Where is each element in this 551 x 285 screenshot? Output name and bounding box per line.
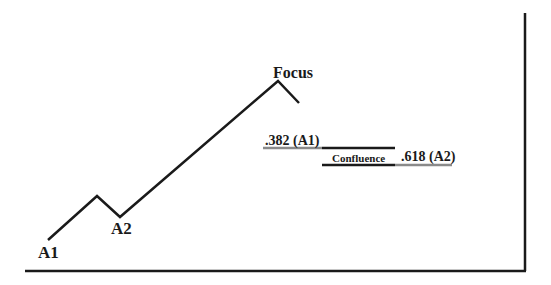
label-confluence: Confluence <box>332 152 385 164</box>
label-focus: Focus <box>273 64 313 81</box>
price-swing-path <box>48 81 299 240</box>
label-fib-618: .618 (A2) <box>401 149 456 165</box>
label-a1: A1 <box>38 243 59 262</box>
label-fib-382: .382 (A1) <box>265 133 320 149</box>
label-a2: A2 <box>111 219 132 238</box>
fibonacci-confluence-diagram: A1 A2 Focus .382 (A1) Confluence .618 (A… <box>0 0 551 285</box>
